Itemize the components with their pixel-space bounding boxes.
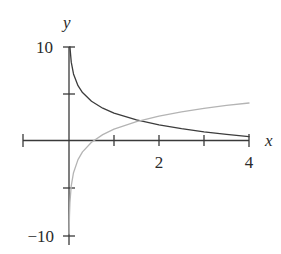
y-tick-label-10: 10 [36,38,53,57]
y-tick-label-neg10: −10 [27,227,54,246]
decreasing-curve [70,47,249,137]
x-tick-label-4: 4 [245,153,254,172]
chart: y x 10 −10 2 4 [0,0,281,254]
x-tick-label-2: 2 [155,153,164,172]
y-axis-label: y [61,13,71,32]
x-axis-label: x [264,131,273,150]
